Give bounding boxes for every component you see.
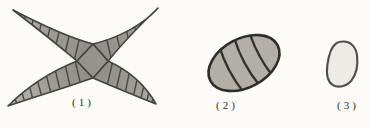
figure-3-drawing — [326, 41, 359, 88]
figure-1-label: (1) — [60, 96, 106, 108]
figure-3-label: (3) — [325, 99, 370, 111]
spore-arm-top-right — [93, 8, 158, 61]
figure-2-label: (2) — [204, 99, 250, 111]
illustration-canvas: (1) (2) (3) — [0, 0, 370, 128]
figure-2-drawing — [198, 22, 290, 104]
figure-1-drawing — [8, 8, 158, 109]
oval-spore-body — [326, 41, 359, 88]
spore-illustration-svg — [0, 0, 370, 128]
